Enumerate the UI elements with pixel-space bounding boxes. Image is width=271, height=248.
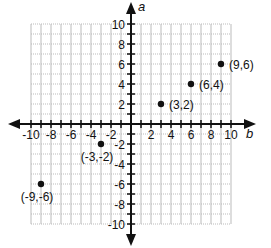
arrow-up-icon bbox=[126, 2, 136, 14]
arrow-left-icon bbox=[8, 119, 20, 129]
x-tick-label: -6 bbox=[66, 128, 77, 142]
point-label: (9,6) bbox=[229, 58, 254, 72]
y-tick-label: -4 bbox=[114, 158, 125, 172]
point-label: (-9,-6) bbox=[21, 190, 54, 204]
point-marker bbox=[38, 181, 44, 187]
point-marker bbox=[188, 81, 194, 87]
point-marker bbox=[98, 141, 104, 147]
point-label: (3,2) bbox=[169, 98, 194, 112]
x-tick-label: 4 bbox=[168, 128, 175, 142]
x-tick-label: -4 bbox=[86, 128, 97, 142]
y-tick-label: 4 bbox=[118, 78, 125, 92]
coordinate-plane: -10-8-6-4-2246810108642-2-4-6-8-10 b a (… bbox=[0, 0, 271, 248]
y-tick-label: 8 bbox=[118, 38, 125, 52]
data-point: (6,4) bbox=[188, 78, 224, 92]
x-axis-label: b bbox=[246, 126, 253, 141]
x-tick-label: 10 bbox=[224, 128, 238, 142]
point-label: (-3,-2) bbox=[81, 150, 114, 164]
y-axis-label: a bbox=[138, 0, 145, 14]
y-tick-label: -8 bbox=[114, 198, 125, 212]
axes bbox=[8, 2, 256, 246]
x-tick-label: 6 bbox=[188, 128, 195, 142]
point-marker bbox=[218, 61, 224, 67]
y-tick-label: 10 bbox=[112, 18, 126, 32]
y-tick-label: 2 bbox=[118, 98, 125, 112]
x-tick-label: -10 bbox=[22, 128, 40, 142]
x-tick-label: -8 bbox=[46, 128, 57, 142]
x-tick-label: 2 bbox=[148, 128, 155, 142]
data-point: (3,2) bbox=[158, 98, 194, 112]
x-tick-label: 8 bbox=[208, 128, 215, 142]
y-tick-label: -2 bbox=[114, 138, 125, 152]
y-tick-label: -10 bbox=[108, 218, 126, 232]
data-point: (9,6) bbox=[218, 58, 254, 72]
y-tick-label: -6 bbox=[114, 178, 125, 192]
point-label: (6,4) bbox=[199, 78, 224, 92]
arrow-down-icon bbox=[126, 234, 136, 246]
y-tick-label: 6 bbox=[118, 58, 125, 72]
point-marker bbox=[158, 101, 164, 107]
